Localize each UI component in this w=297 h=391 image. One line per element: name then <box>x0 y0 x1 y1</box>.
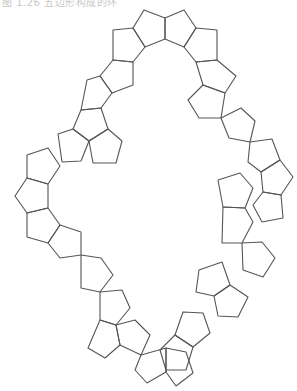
pentagon <box>48 225 81 258</box>
pentagon <box>222 207 253 243</box>
pentagon <box>253 192 283 222</box>
pentagon <box>100 60 133 93</box>
pentagon <box>88 320 120 358</box>
pentagon <box>218 173 253 208</box>
pentagon <box>89 129 122 163</box>
pentagon <box>133 10 165 47</box>
pentagon <box>221 108 255 142</box>
pentagon <box>15 178 48 213</box>
pentagon <box>81 76 112 110</box>
pentagon <box>81 255 113 292</box>
pentagon <box>214 285 248 317</box>
pentagon-ring-diagram <box>0 0 297 391</box>
pentagon <box>116 320 150 355</box>
pentagon <box>100 290 130 325</box>
pentagon <box>113 28 145 62</box>
pentagon <box>184 28 217 62</box>
pentagon <box>73 108 108 141</box>
pentagon <box>165 10 196 47</box>
pentagon <box>166 348 193 386</box>
pentagon <box>160 335 193 370</box>
pentagon <box>196 262 230 296</box>
pentagon <box>248 139 280 172</box>
pentagon <box>27 208 60 243</box>
pentagon <box>196 60 236 93</box>
pentagon <box>27 148 60 184</box>
pentagon <box>261 160 293 195</box>
pentagon <box>188 85 225 118</box>
pentagon <box>242 242 275 277</box>
pentagon <box>175 312 210 347</box>
pentagon <box>58 129 89 162</box>
